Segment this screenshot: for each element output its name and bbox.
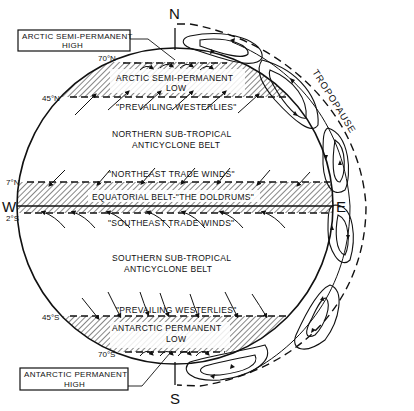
se-trades-label: "SOUTHEAST TRADE WINDS" (108, 218, 234, 228)
antarctic-low-label-2: LOW (166, 334, 186, 344)
arctic-high-label-2: HIGH (62, 41, 83, 50)
lat-70n: 70°N (98, 54, 116, 63)
arctic-high-callout: ARCTIC SEMI-PERMANENT HIGH (18, 30, 175, 60)
south-subtropical-label-2: ANTICYCLONE BELT (124, 264, 212, 274)
atmospheric-circulation-diagram: N S W E 70°N 45°N 7°N 2°S 45°S 70°S ARCT… (0, 0, 414, 411)
lat-45s: 45°S (42, 313, 59, 322)
north-westerlies-label: "PREVAILING WESTERLIES" (116, 102, 236, 112)
arctic-low-label-2: LOW (166, 83, 186, 93)
compass-south: S (170, 390, 180, 407)
lat-7n: 7°N (6, 178, 20, 187)
lat-45n: 45°N (42, 94, 60, 103)
lat-70s: 70°S (98, 350, 115, 359)
antarctic-high-label-1: ANTARCTIC PERMANENT (24, 370, 127, 379)
lat-2s: 2°S (6, 214, 19, 223)
north-subtropical-label-2: ANTICYCLONE BELT (132, 140, 220, 150)
arctic-high-label-1: ARCTIC SEMI-PERMANENT (22, 32, 133, 41)
compass-east: E (336, 198, 346, 215)
compass-north: N (169, 5, 180, 22)
compass-west: W (2, 198, 17, 215)
south-westerlies-label: "PREVAILING WESTERLIES" (116, 305, 236, 315)
north-subtropical-label-1: NORTHERN SUB-TROPICAL (112, 129, 232, 139)
doldrums-label: EQUATORIAL BELT-"THE DOLDRUMS" (92, 192, 254, 202)
ne-trades-label: "NORTHEAST TRADE WINDS" (108, 169, 235, 179)
antarctic-low-label-1: ANTARCTIC PERMANENT (112, 323, 221, 333)
antarctic-high-callout: ANTARCTIC PERMANENT HIGH (20, 353, 170, 390)
antarctic-high-label-2: HIGH (64, 380, 85, 389)
arctic-low-label-1: ARCTIC SEMI-PERMANENT (116, 73, 233, 83)
south-subtropical-label-1: SOUTHERN SUB-TROPICAL (112, 253, 231, 263)
